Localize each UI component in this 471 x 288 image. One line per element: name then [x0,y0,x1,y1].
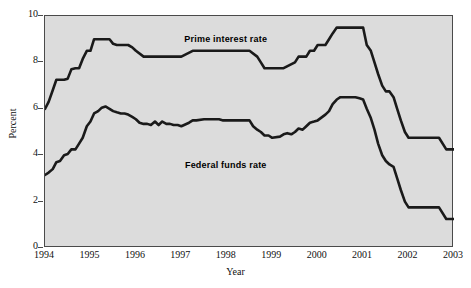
x-tick-label-2000: 2000 [294,249,340,261]
plot-area [44,15,453,247]
x-tick-label-2003: 2003 [430,249,471,261]
x-tick-label-2001: 2001 [339,249,385,261]
y-tick-mark-2 [38,201,43,202]
x-tick-label-1999: 1999 [248,249,294,261]
x-tick-label-1995: 1995 [66,249,112,261]
line-prime-interest-rate [45,28,454,150]
x-tick-label-1994: 1994 [21,249,67,261]
y-tick-mark-0 [38,247,43,248]
figure: Percent 0246810 Prime interest rate Fede… [0,0,471,288]
annotation-federal-funds-rate: Federal funds rate [185,160,267,170]
y-axis-ticks: 0246810 [0,0,38,262]
line-federal-funds-rate [45,97,454,219]
x-tick-label-1998: 1998 [203,249,249,261]
annotation-prime-interest-rate: Prime interest rate [184,34,267,44]
y-tick-label-4: 4 [4,148,38,158]
y-tick-mark-6 [38,108,43,109]
series-lines [45,16,454,248]
x-tick-label-1996: 1996 [112,249,158,261]
y-tick-mark-10 [38,15,43,16]
y-tick-label-2: 2 [4,195,38,205]
y-tick-label-10: 10 [4,9,38,19]
x-axis-ticks: 1994199519961997199819992000200120022003 [0,249,471,265]
y-tick-label-6: 6 [4,102,38,112]
y-tick-mark-8 [38,61,43,62]
x-tick-label-2002: 2002 [385,249,431,261]
x-axis-label: Year [0,266,471,277]
y-tick-mark-4 [38,154,43,155]
y-tick-label-8: 8 [4,55,38,65]
x-tick-label-1997: 1997 [157,249,203,261]
